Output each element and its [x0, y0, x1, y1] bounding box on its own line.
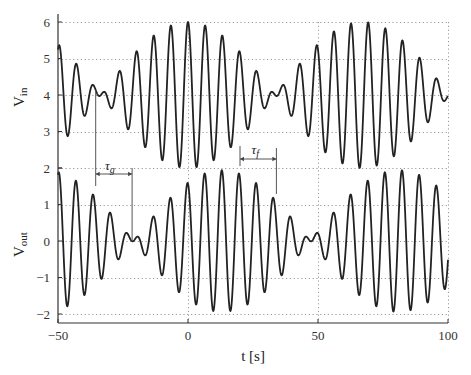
- series-layer: [58, 22, 448, 312]
- y-axis-title-vin-main: V: [11, 96, 27, 107]
- y-axis-title-vout-text: Vout: [11, 232, 29, 257]
- annotations: τgτf: [96, 90, 277, 241]
- x-tick-label: −50: [48, 328, 68, 343]
- arrowhead-icon: [240, 157, 244, 161]
- y-axis-title-vout-main: V: [11, 246, 27, 257]
- y-tick-label: 2: [44, 161, 51, 176]
- chart: 23456−2−101−50050100 τgτf t [s] Vin Vout: [0, 0, 471, 375]
- y-axis-title-vout: Vout: [11, 232, 29, 257]
- y-tick-label: −2: [36, 307, 50, 322]
- annotation-group-delay: τg: [96, 90, 132, 241]
- x-tick-label: 50: [312, 328, 325, 343]
- y-tick-label: 4: [44, 88, 51, 103]
- y-axis-title-vout-sub: out: [17, 232, 29, 246]
- annotation-tau-f-label: τf: [251, 142, 260, 159]
- series-vout-line: [58, 170, 448, 311]
- arrowhead-icon: [96, 172, 100, 176]
- x-axis-title: t [s]: [241, 348, 265, 364]
- tau-f-subscript: f: [256, 148, 260, 159]
- y-tick-label: 1: [44, 197, 51, 212]
- y-axis-title-vin-sub: in: [17, 87, 29, 96]
- y-axis-title-vin-text: Vin: [11, 87, 29, 107]
- y-tick-label: 5: [44, 51, 51, 66]
- arrowhead-icon: [272, 157, 276, 161]
- tau-g-subscript: g: [110, 164, 115, 175]
- y-axis-title-vin: Vin: [11, 87, 29, 107]
- arrowhead-icon: [128, 172, 132, 176]
- x-tick-label: 100: [438, 328, 458, 343]
- y-tick-label: 0: [44, 234, 51, 249]
- annotation-tau-g-label: τg: [105, 158, 115, 175]
- y-tick-label: 6: [44, 15, 51, 30]
- x-tick-label: 0: [185, 328, 192, 343]
- y-tick-label: 3: [44, 124, 51, 139]
- y-tick-label: −1: [36, 270, 50, 285]
